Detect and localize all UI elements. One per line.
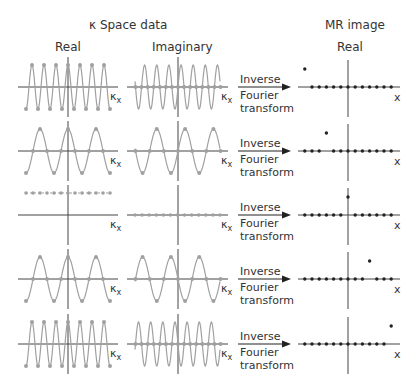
arrow-label-inverse: Inverse [240, 330, 281, 343]
fourier-diagram: κxκxInverseFouriertransformxκxκxInverseF… [0, 0, 414, 391]
sample-point [84, 107, 88, 111]
sample-point [87, 149, 91, 153]
mr-signal-point [390, 324, 393, 327]
mr-signal-point [346, 195, 349, 198]
sample-point [219, 277, 223, 281]
sample-point [155, 299, 159, 303]
sample-point [36, 364, 40, 368]
mr-baseline-point [318, 149, 321, 152]
sample-point [72, 107, 76, 111]
sample-point [78, 63, 82, 67]
sample-point [211, 127, 215, 131]
arrow-head-icon [282, 84, 291, 91]
imaginary-kspace-plot: κx [127, 57, 232, 117]
mr-baseline-point [361, 149, 364, 152]
mr-baseline-point [354, 277, 357, 280]
sample-point [72, 364, 76, 368]
sample-point [108, 191, 112, 195]
mr-baseline-point [318, 213, 321, 216]
sample-point [45, 191, 49, 195]
mr-baseline-point [354, 85, 357, 88]
mr-baseline-point [361, 85, 364, 88]
inverse-fourier-arrow: InverseFouriertransform [238, 137, 294, 179]
mr-baseline-point [368, 85, 371, 88]
sample-point [24, 107, 28, 111]
mr-baseline-point [346, 277, 349, 280]
transform-row: κxκxInverseFouriertransformx [18, 314, 401, 374]
arrow-label-transform: transform [240, 359, 294, 372]
arrow-label-fourier: Fourier [240, 217, 279, 230]
sample-point [188, 342, 192, 346]
sample-point [80, 299, 84, 303]
sample-point [24, 364, 28, 368]
mr-baseline-point [339, 85, 342, 88]
sample-point [190, 149, 194, 153]
sample-point [218, 213, 222, 217]
sample-point [146, 85, 150, 89]
sample-point [211, 213, 215, 217]
sample-point [101, 149, 105, 153]
sample-point [133, 213, 137, 217]
sample-point [219, 149, 223, 153]
sample-point [30, 320, 34, 324]
sample-point [148, 277, 152, 281]
mr-baseline-point [375, 213, 378, 216]
sample-point [36, 107, 40, 111]
mr-image-plot: x [298, 124, 401, 181]
arrow-label-fourier: Fourier [240, 281, 279, 294]
sample-point [206, 342, 210, 346]
mr-baseline-point [346, 342, 349, 345]
sample-point [194, 342, 198, 346]
sample-point [52, 171, 56, 175]
arrow-label-inverse: Inverse [240, 265, 281, 278]
sample-point [158, 85, 162, 89]
sample-point [219, 85, 223, 89]
sample-point [164, 85, 168, 89]
mr-baseline-point [303, 149, 306, 152]
mr-baseline-point [318, 85, 321, 88]
transform-row: κxκxInverseFouriertransformx [18, 121, 401, 181]
sample-point [140, 85, 144, 89]
sample-point [164, 342, 168, 346]
x-axis-label: x [394, 91, 401, 104]
mr-baseline-point [346, 85, 349, 88]
x-axis-label: x [394, 219, 401, 232]
sample-point [48, 364, 52, 368]
x-axis-label: x [394, 155, 401, 168]
sample-point [194, 85, 198, 89]
kx-axis-label: κx [221, 347, 232, 362]
mr-baseline-point [361, 213, 364, 216]
sample-point [38, 255, 42, 259]
mr-baseline-point [382, 85, 385, 88]
mr-baseline-point [303, 213, 306, 216]
x-axis-label: x [394, 348, 401, 361]
sample-point [176, 342, 180, 346]
arrow-head-icon [282, 148, 291, 155]
sample-point [101, 191, 105, 195]
sample-point [162, 149, 166, 153]
sample-point [152, 85, 156, 89]
sample-point [66, 191, 70, 195]
mr-baseline-point [303, 342, 306, 345]
sample-point [94, 127, 98, 131]
sample-point [87, 277, 91, 281]
imaginary-kspace-plot: κx [127, 121, 232, 181]
sample-point [176, 85, 180, 89]
sample-point [59, 277, 63, 281]
sample-point [176, 149, 180, 153]
mr-baseline-point [382, 149, 385, 152]
mr-baseline-point [382, 277, 385, 280]
sample-point [146, 342, 150, 346]
sample-point [42, 320, 46, 324]
mr-baseline-point [339, 149, 342, 152]
mr-baseline-point [310, 277, 313, 280]
sample-point [188, 85, 192, 89]
mr-baseline-point [303, 277, 306, 280]
mr-baseline-point [339, 213, 342, 216]
sample-point [52, 191, 56, 195]
mr-baseline-point [310, 213, 313, 216]
sample-point [212, 342, 216, 346]
sample-point [54, 63, 58, 67]
arrow-label-fourier: Fourier [240, 153, 279, 166]
sample-point [84, 364, 88, 368]
